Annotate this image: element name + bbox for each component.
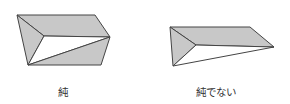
figure-not-pure (170, 27, 274, 66)
label-not-pure: 純でない (196, 84, 236, 99)
label-pure: 純 (58, 84, 68, 99)
figure-pure (17, 15, 110, 65)
diagram-canvas (0, 0, 290, 104)
